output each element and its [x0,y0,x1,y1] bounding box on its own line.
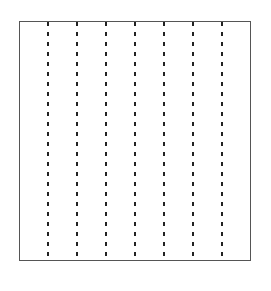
dashed-lines-layer [0,0,271,291]
